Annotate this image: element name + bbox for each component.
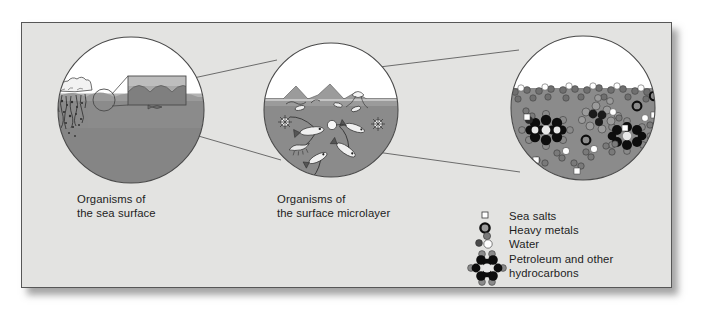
legend-symbols <box>468 212 507 285</box>
diagram-canvas <box>0 0 707 335</box>
circle-molecular-view <box>511 36 658 183</box>
caption-sea-surface: Organisms of the sea surface <box>77 193 156 220</box>
legend-water-molecule-icon <box>476 232 493 248</box>
legend-hydrocarbon-molecule-icon <box>468 251 507 286</box>
legend-label-sea-salts: Sea salts <box>509 210 556 224</box>
circle-sea-surface <box>57 37 204 187</box>
legend-label-water: Water <box>509 238 539 252</box>
legend-heavy-metal-ring-icon <box>480 223 489 232</box>
legend-label-hydrocarbons: Petroleum and other hydrocarbons <box>509 253 613 280</box>
legend-sea-salt-square-icon <box>482 212 488 218</box>
legend-label-heavy-metals: Heavy metals <box>509 224 579 238</box>
caption-surface-microlayer: Organisms of the surface microlayer <box>277 193 390 220</box>
circle-surface-microlayer <box>264 43 398 181</box>
